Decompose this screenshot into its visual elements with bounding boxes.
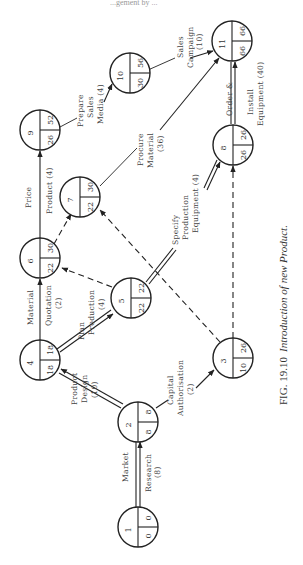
activity-market-research: Market Research (8) xyxy=(121,442,162,507)
svg-text:9: 9 xyxy=(26,130,35,135)
node-9: 9 26 52 xyxy=(20,110,60,150)
svg-text:(10): (10) xyxy=(195,33,204,50)
svg-text:66: 66 xyxy=(238,26,247,36)
svg-text:Research: Research xyxy=(144,454,153,492)
svg-text:Design: Design xyxy=(80,375,89,403)
network-diagram: ...gement by ... Market Research (8) Pro… xyxy=(0,0,303,565)
activity-product-design: Product Design (10) xyxy=(59,369,123,408)
svg-text:30: 30 xyxy=(86,182,95,192)
activity-sales-campaign: Sales Campaign (10) xyxy=(148,26,213,70)
node-5: 5 22 22 xyxy=(111,278,151,318)
svg-text:26: 26 xyxy=(239,130,248,140)
svg-text:26: 26 xyxy=(239,150,248,160)
svg-text:(8): (8) xyxy=(153,466,162,478)
activity-price-product: Price Product (4) xyxy=(24,151,54,238)
svg-text:30: 30 xyxy=(136,78,145,88)
svg-text:Specify: Specify xyxy=(171,214,180,245)
svg-text:8: 8 xyxy=(144,409,153,414)
svg-text:7: 7 xyxy=(66,197,75,202)
svg-text:26: 26 xyxy=(46,135,55,145)
svg-text:11: 11 xyxy=(218,39,227,49)
svg-text:Equipment (40): Equipment (40) xyxy=(256,62,265,126)
node-1: 1 0 0 xyxy=(118,507,158,547)
svg-text:52: 52 xyxy=(46,115,55,125)
svg-text:(2): (2) xyxy=(54,297,63,309)
svg-text:Authorisation: Authorisation xyxy=(176,360,185,417)
svg-text:18: 18 xyxy=(46,345,55,355)
svg-text:0: 0 xyxy=(144,515,153,520)
svg-text:8: 8 xyxy=(144,429,153,434)
svg-text:Order &: Order & xyxy=(225,82,234,116)
activity-material-quotation: Material Quotation (2) xyxy=(26,279,63,340)
svg-text:Sales: Sales xyxy=(176,36,185,58)
svg-text:Market: Market xyxy=(121,452,130,482)
node-4: 4 18 18 xyxy=(20,340,60,380)
node-10: 10 30 56 xyxy=(110,53,150,93)
svg-text:10: 10 xyxy=(239,363,248,373)
header-fragment: ...gement by ... xyxy=(110,0,158,7)
svg-text:Campaign: Campaign xyxy=(186,26,195,68)
svg-text:Product: Product xyxy=(70,373,79,405)
svg-text:Material: Material xyxy=(26,289,35,325)
activity-plan-production: Plan Production (4) xyxy=(57,290,113,352)
caption-prefix: FIG. 19.10 xyxy=(277,357,289,405)
svg-text:2: 2 xyxy=(124,422,133,427)
node-3: 3 10 26 xyxy=(213,338,253,378)
svg-text:Capital: Capital xyxy=(166,375,175,405)
svg-text:Product (4): Product (4) xyxy=(45,167,54,214)
svg-text:66: 66 xyxy=(238,46,247,56)
svg-text:Plan: Plan xyxy=(77,322,86,340)
svg-text:22: 22 xyxy=(137,303,146,313)
activity-order-install-equipment: Order & Install Equipment (40) xyxy=(225,62,265,126)
svg-text:22: 22 xyxy=(46,263,55,273)
svg-text:(2): (2) xyxy=(186,383,195,395)
svg-text:4: 4 xyxy=(26,360,35,365)
figure-caption: FIG. 19.10Introduction of new Product. xyxy=(277,225,289,405)
dummy-3-7 xyxy=(100,210,220,342)
svg-text:6: 6 xyxy=(26,258,35,263)
node-2: 2 8 8 xyxy=(118,402,158,442)
svg-text:30: 30 xyxy=(46,243,55,253)
svg-text:Production: Production xyxy=(181,195,190,240)
activity-capital-authorisation: Capital Authorisation (2) xyxy=(156,360,214,417)
svg-text:0: 0 xyxy=(144,533,153,538)
svg-text:10: 10 xyxy=(116,71,125,81)
svg-text:26: 26 xyxy=(239,343,248,353)
svg-text:Prepare: Prepare xyxy=(76,94,85,127)
svg-text:(4): (4) xyxy=(97,298,106,310)
svg-text:FIG. 19.10Introduction of new: FIG. 19.10Introduction of new Product. xyxy=(277,225,289,405)
svg-text:Price: Price xyxy=(24,186,33,208)
svg-text:Procure: Procure xyxy=(136,133,145,166)
svg-text:18: 18 xyxy=(46,365,55,375)
svg-text:22: 22 xyxy=(86,202,95,212)
svg-text:Quotation: Quotation xyxy=(44,285,53,326)
svg-text:22: 22 xyxy=(137,283,146,293)
node-6: 6 22 30 xyxy=(20,238,60,278)
node-8: 8 26 26 xyxy=(213,125,253,165)
svg-text:3: 3 xyxy=(219,358,228,363)
activity-prepare-sales-media: Prepare Sales Media (4) xyxy=(60,84,112,127)
svg-text:(10): (10) xyxy=(90,381,99,398)
svg-text:Material: Material xyxy=(146,132,155,168)
activity-specify-production-equipment: Specify Production Equipment (4) xyxy=(146,160,220,284)
svg-text:Media (4): Media (4) xyxy=(96,84,105,124)
svg-text:56: 56 xyxy=(136,58,145,68)
node-7: 7 22 30 xyxy=(60,177,100,217)
svg-text:5: 5 xyxy=(117,298,126,303)
svg-text:8: 8 xyxy=(219,145,228,150)
caption-title: Introduction of new Product. xyxy=(277,225,289,353)
svg-text:Production: Production xyxy=(87,290,96,335)
dummy-6-7 xyxy=(54,214,71,244)
svg-text:1: 1 xyxy=(124,527,133,532)
dummy-5-6 xyxy=(62,268,112,287)
svg-text:Equipment (4): Equipment (4) xyxy=(191,174,200,233)
svg-text:Sales: Sales xyxy=(86,96,95,118)
svg-text:Install: Install xyxy=(246,88,255,115)
svg-text:(36): (36) xyxy=(156,135,165,152)
node-11: 11 66 66 xyxy=(212,21,252,61)
